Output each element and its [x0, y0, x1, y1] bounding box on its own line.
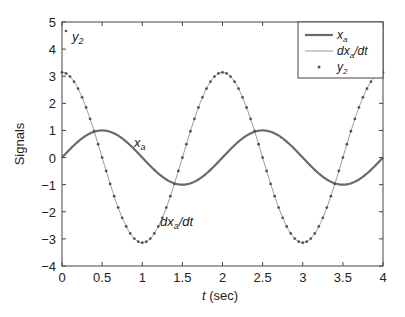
x-axis-label: t (sec) — [202, 288, 238, 303]
x-tick-label: 1.5 — [173, 270, 191, 285]
y-tick-label: 4 — [49, 42, 56, 57]
y-tick-label: −4 — [41, 259, 56, 274]
y-tick-label: 3 — [49, 69, 56, 84]
x-tick-label: 3.5 — [334, 270, 352, 285]
x-tick-label: 1 — [139, 270, 146, 285]
svg-text:y2: y2 — [71, 29, 84, 46]
y-tick-label: −3 — [41, 232, 56, 247]
x-tick-label: 3 — [299, 270, 306, 285]
x-tick-label: 2 — [219, 270, 226, 285]
y-tick-label: 0 — [49, 151, 56, 166]
svg-text:xa: xa — [133, 135, 146, 152]
annotation-xa: xa — [133, 135, 146, 152]
legend: xa dxa/dt y2 — [298, 22, 383, 78]
x-tick-label: 0 — [58, 270, 65, 285]
legend-marker-y2-icon — [318, 66, 321, 69]
series-xa-line — [62, 130, 383, 184]
y-tick-label: 1 — [49, 123, 56, 138]
svg-text:dxa/dt: dxa/dt — [160, 214, 195, 231]
x-tick-label: 2.5 — [254, 270, 272, 285]
annotation-dxadt: dxa/dt — [160, 214, 195, 231]
y-tick-label: −2 — [41, 205, 56, 220]
x-tick-label: 4 — [379, 270, 386, 285]
y-tick-label: −1 — [41, 178, 56, 193]
y-tick-label: 2 — [49, 96, 56, 111]
y2-label-marker — [65, 30, 68, 33]
y-axis-label: Signals — [12, 122, 27, 165]
x-tick-label: 0.5 — [93, 270, 111, 285]
annotation-y2: y2 — [71, 29, 84, 46]
signals-chart: 00.511.522.533.54−4−3−2−1012345 t (sec) … — [0, 0, 405, 317]
y-tick-label: 5 — [49, 15, 56, 30]
